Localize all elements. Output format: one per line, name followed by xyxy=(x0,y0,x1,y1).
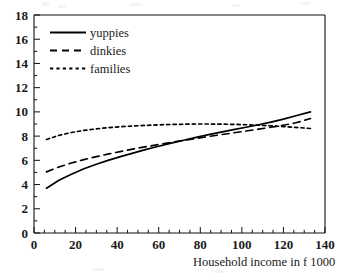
y-tick-label: 12 xyxy=(15,80,28,95)
legend-label-dinkies: dinkies xyxy=(90,44,126,58)
y-tick-label: 10 xyxy=(15,104,28,119)
chart-container: 024681012141618 020406080100120140 yuppi… xyxy=(0,0,348,276)
x-tick-label: 0 xyxy=(31,237,38,252)
legend-label-yuppies: yuppies xyxy=(90,26,129,40)
y-axis-ticks xyxy=(34,15,40,233)
x-axis-tick-labels: 020406080100120140 xyxy=(31,237,335,252)
series-line-yuppies xyxy=(46,112,310,188)
y-tick-label: 16 xyxy=(15,32,29,47)
x-tick-label: 60 xyxy=(152,237,165,252)
y-tick-label: 14 xyxy=(15,56,29,71)
x-tick-label: 20 xyxy=(69,237,82,252)
x-tick-label: 80 xyxy=(194,237,207,252)
series-line-families xyxy=(46,124,310,140)
x-axis-ticks xyxy=(34,227,325,233)
y-axis-tick-labels: 024681012141618 xyxy=(15,8,29,241)
chart-legend: yuppies dinkies families xyxy=(50,26,130,76)
y-tick-label: 2 xyxy=(22,201,29,216)
data-series-group xyxy=(46,112,310,188)
x-tick-label: 40 xyxy=(111,237,124,252)
y-tick-label: 4 xyxy=(22,177,29,192)
x-tick-label: 100 xyxy=(232,237,252,252)
line-chart: 024681012141618 020406080100120140 yuppi… xyxy=(0,0,348,276)
x-tick-label: 120 xyxy=(274,237,294,252)
legend-label-families: families xyxy=(90,62,130,76)
x-axis-title: Household income in f 1000 xyxy=(193,255,335,269)
y-tick-label: 18 xyxy=(15,8,29,23)
x-tick-label: 140 xyxy=(315,237,335,252)
y-tick-label: 6 xyxy=(22,153,29,168)
y-tick-label: 8 xyxy=(22,129,29,144)
y-tick-label: 0 xyxy=(22,226,29,241)
